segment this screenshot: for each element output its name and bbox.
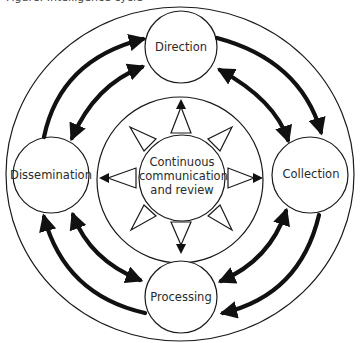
center-label-line-2: communication (139, 170, 225, 184)
center-label-line-1: Continuous (139, 156, 225, 170)
center-label-line-3: and review (139, 184, 225, 198)
arrow-collection-to-processing-outer (223, 215, 319, 313)
arrow-processing-dissemination-inner (73, 215, 140, 280)
node-collection-label: Collection (283, 168, 340, 182)
center-label: Continuous communication and review (139, 156, 225, 197)
node-processing-label: Processing (150, 291, 211, 305)
arrow-processing-to-dissemination-outer (44, 217, 145, 313)
arrow-direction-to-collection-outer (217, 38, 321, 132)
node-direction-label: Direction (155, 41, 207, 55)
node-dissemination-label: Dissemination (10, 169, 92, 183)
